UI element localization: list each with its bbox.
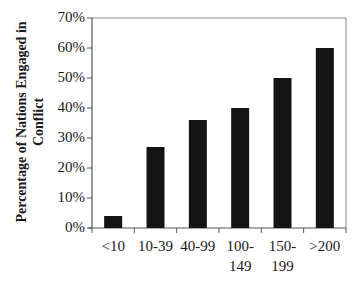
x-category-label: 100-149 bbox=[218, 236, 262, 276]
bar bbox=[104, 216, 122, 228]
bar bbox=[189, 120, 207, 228]
x-category-label-line: 199 bbox=[261, 256, 305, 276]
y-tick-label: 70% bbox=[58, 10, 86, 25]
x-category-label-line: <10 bbox=[91, 236, 135, 256]
x-category-label-line: 10-39 bbox=[134, 236, 178, 256]
x-category-label: 150-199 bbox=[261, 236, 305, 276]
x-category-label-line: 100- bbox=[218, 236, 262, 256]
bar-chart: Percentage of Nations Engaged in Conflic… bbox=[0, 0, 355, 287]
y-tick-label: 30% bbox=[58, 130, 86, 145]
x-category-label: 40-99 bbox=[176, 236, 220, 256]
y-tick-label: 10% bbox=[58, 190, 86, 205]
bar bbox=[231, 108, 249, 228]
x-category-label: >200 bbox=[303, 236, 347, 256]
x-category-label-line: 150- bbox=[261, 236, 305, 256]
y-tick-label: 0% bbox=[65, 220, 85, 235]
y-tick-label: 20% bbox=[58, 160, 86, 175]
bar bbox=[316, 48, 334, 228]
x-category-label: 10-39 bbox=[134, 236, 178, 256]
y-tick-label: 50% bbox=[58, 70, 86, 85]
y-tick-label: 40% bbox=[58, 100, 86, 115]
x-category-label-line: 40-99 bbox=[176, 236, 220, 256]
y-tick-label: 60% bbox=[58, 40, 86, 55]
x-category-label: <10 bbox=[91, 236, 135, 256]
bar bbox=[274, 78, 292, 228]
x-category-label-line: 149 bbox=[218, 256, 262, 276]
bar bbox=[147, 147, 165, 228]
x-category-label-line: >200 bbox=[303, 236, 347, 256]
